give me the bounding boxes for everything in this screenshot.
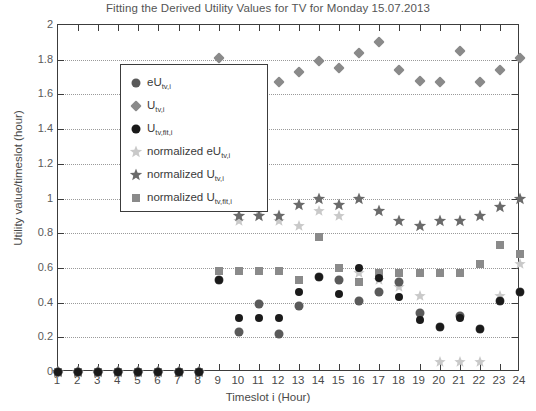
gridline: [58, 233, 518, 234]
square-marker: [516, 250, 524, 258]
x-tick-label: 7: [174, 374, 180, 386]
star-marker: [293, 220, 305, 232]
star-marker: [493, 201, 506, 214]
x-tick: [118, 364, 119, 370]
x-tick: [440, 364, 441, 370]
x-tick-label: 16: [352, 374, 365, 386]
x-tick: [179, 25, 180, 31]
x-tick-label: 13: [292, 374, 305, 386]
circle-marker: [455, 312, 464, 321]
circle-marker: [375, 274, 383, 282]
square-marker: [456, 269, 464, 277]
star-marker: [414, 290, 426, 302]
legend-item[interactable]: eUtv,i: [121, 71, 267, 95]
x-tick: [158, 25, 159, 31]
star-marker: [313, 205, 325, 217]
circle-marker: [315, 273, 323, 281]
x-tick: [339, 364, 340, 370]
circle-marker: [275, 314, 283, 322]
x-tick: [118, 25, 119, 31]
star-marker: [413, 220, 426, 233]
square-marker: [436, 269, 444, 277]
circle-marker: [436, 323, 444, 331]
x-tick: [199, 25, 200, 31]
y-tick-label: 0: [47, 365, 53, 377]
x-tick: [158, 364, 159, 370]
x-tick-label: 1: [54, 374, 60, 386]
y-tick: [58, 129, 64, 130]
x-axis-tick-labels: 123456789101112131415161718192021222324: [57, 374, 519, 390]
x-tick: [379, 364, 380, 370]
x-tick: [98, 364, 99, 370]
x-tick: [239, 25, 240, 31]
legend-item[interactable]: Utv,i: [121, 94, 267, 118]
legend-marker: [121, 117, 147, 141]
legend-item[interactable]: normalized Utv,fit,i: [121, 186, 267, 210]
x-tick: [259, 364, 260, 370]
diamond-marker: [454, 45, 465, 56]
y-tick-label: 1: [47, 192, 53, 204]
star-marker: [293, 199, 306, 212]
legend-item[interactable]: normalized eUtv,i: [121, 140, 267, 164]
x-tick-label: 17: [372, 374, 385, 386]
x-tick-label: 22: [472, 374, 485, 386]
square-marker: [395, 269, 403, 277]
legend-label: normalized Utv,i: [147, 169, 224, 181]
x-tick-label: 12: [272, 374, 285, 386]
x-tick: [279, 364, 280, 370]
x-tick: [399, 364, 400, 370]
square-marker: [132, 194, 140, 202]
y-tick-label: 0.4: [38, 296, 53, 308]
y-tick-label: 0.8: [38, 226, 53, 238]
star-marker: [130, 169, 143, 182]
y-tick-label: 2: [47, 18, 53, 30]
x-tick: [500, 364, 501, 370]
x-tick: [359, 25, 360, 31]
x-tick: [78, 364, 79, 370]
circle-marker: [235, 314, 243, 322]
square-marker: [295, 276, 303, 284]
gridline: [58, 60, 518, 61]
x-tick: [299, 25, 300, 31]
x-tick: [480, 25, 481, 31]
x-tick: [279, 25, 280, 31]
diamond-marker: [334, 63, 345, 74]
y-tick: [512, 233, 518, 234]
circle-marker: [496, 297, 504, 305]
legend-item[interactable]: normalized Utv,i: [121, 163, 267, 187]
legend-item[interactable]: Utv,fit,i: [121, 117, 267, 141]
diamond-marker: [130, 100, 141, 111]
x-tick: [399, 25, 400, 31]
x-tick-label: 19: [412, 374, 425, 386]
circle-marker: [355, 296, 364, 305]
legend-label: normalized Utv,fit,i: [147, 192, 232, 204]
square-marker: [355, 278, 363, 286]
diamond-marker: [414, 75, 425, 86]
diamond-marker: [494, 64, 505, 75]
y-tick: [512, 129, 518, 130]
circle-marker: [255, 314, 263, 322]
diamond-marker: [374, 37, 385, 48]
y-tick: [58, 303, 64, 304]
diamond-marker: [293, 66, 304, 77]
x-tick: [460, 25, 461, 31]
x-axis-title: Timeslot i (Hour): [0, 391, 536, 403]
x-tick: [179, 364, 180, 370]
y-tick-label: 0.6: [38, 261, 53, 273]
y-tick: [512, 303, 518, 304]
circle-marker: [495, 296, 504, 305]
gridline: [58, 337, 518, 338]
circle-marker: [415, 309, 424, 318]
circle-marker: [516, 288, 524, 296]
x-tick-label: 14: [312, 374, 325, 386]
x-tick-label: 10: [231, 374, 244, 386]
square-marker: [375, 269, 383, 277]
circle-marker: [476, 325, 484, 333]
x-tick: [460, 364, 461, 370]
legend-marker: [121, 163, 147, 187]
x-tick: [219, 364, 220, 370]
x-tick: [98, 25, 99, 31]
star-marker: [373, 274, 385, 286]
x-tick-label: 3: [94, 374, 100, 386]
legend-label: eUtv,i: [147, 77, 171, 89]
